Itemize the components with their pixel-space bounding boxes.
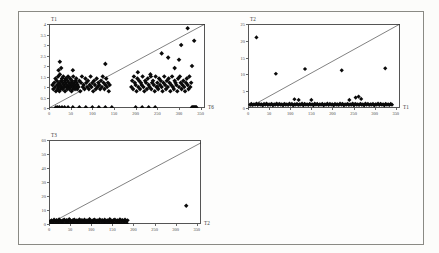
data-point xyxy=(168,89,173,94)
x-axis-tick-mark xyxy=(70,224,71,226)
x-axis-tick-label: 50 xyxy=(267,111,271,116)
y-axis-tick-label: 2 xyxy=(25,64,46,69)
data-point xyxy=(292,97,296,101)
y-axis-tick-label: 10 xyxy=(224,72,245,77)
x-axis-tick-label: 250 xyxy=(350,111,357,116)
chart-t3: T3 6050403020100050100150200250300350T2 xyxy=(25,132,215,242)
y-axis-tick-label: 1 xyxy=(25,85,46,90)
x-axis-tick-mark xyxy=(91,224,92,226)
data-point xyxy=(274,72,278,76)
y-axis-tick-mark xyxy=(47,66,49,67)
y-axis-tick-mark xyxy=(47,196,49,197)
x-axis-tick-mark xyxy=(396,108,397,110)
y-axis-tick-mark xyxy=(47,45,49,46)
x-axis-tick-label: 100 xyxy=(287,111,294,116)
data-point xyxy=(80,74,85,79)
data-point xyxy=(153,74,158,79)
y-axis-tick-label: 5 xyxy=(224,89,245,94)
x-axis-tick-label: 350 xyxy=(197,111,204,116)
data-point xyxy=(162,74,167,79)
x-axis-tick-mark xyxy=(290,108,291,110)
data-point xyxy=(103,62,108,67)
chart-t3-title: T3 xyxy=(51,132,57,138)
data-point xyxy=(146,105,151,108)
y-axis-tick-mark xyxy=(47,140,49,141)
x-axis-tick-label: 350 xyxy=(193,227,200,232)
data-point xyxy=(132,74,137,79)
x-axis-tick-mark xyxy=(92,108,93,110)
y-axis-tick-mark xyxy=(246,24,248,25)
y-axis-tick-label: 1.5 xyxy=(25,74,46,79)
x-axis-tick-label: 200 xyxy=(329,111,336,116)
y-axis-tick-label: 20 xyxy=(224,38,245,43)
x-axis-tick-label: 0 xyxy=(247,111,249,116)
y-axis-tick-mark xyxy=(47,182,49,183)
y-axis-tick-mark xyxy=(47,24,49,25)
data-point xyxy=(140,105,145,108)
y-axis-tick-mark xyxy=(47,87,49,88)
y-axis-tick-label: 15 xyxy=(224,55,245,60)
y-axis-tick-label: 3.5 xyxy=(25,32,46,37)
y-axis-tick-mark xyxy=(246,58,248,59)
x-axis-title: T6 xyxy=(208,104,214,110)
x-axis-tick-label: 200 xyxy=(130,227,137,232)
reference-line xyxy=(49,143,201,224)
x-axis-tick-mark xyxy=(155,224,156,226)
scatter-plot-canvas xyxy=(49,140,201,224)
y-axis-tick-mark xyxy=(246,74,248,75)
data-point xyxy=(71,68,76,73)
x-axis-tick-mark xyxy=(354,108,355,110)
data-point xyxy=(179,43,184,48)
x-axis-tick-label: 300 xyxy=(176,111,183,116)
y-axis-tick-label: 0.5 xyxy=(25,95,46,100)
y-axis-tick-label: 0 xyxy=(25,106,46,111)
y-axis-tick-mark xyxy=(47,56,49,57)
data-point xyxy=(152,89,157,94)
data-point xyxy=(297,98,301,102)
data-point xyxy=(170,74,175,79)
data-point xyxy=(136,70,141,75)
y-axis-tick-label: 4 xyxy=(25,22,46,27)
y-axis-tick-mark xyxy=(47,168,49,169)
scatter-plot-canvas xyxy=(49,24,205,108)
y-axis-tick-mark xyxy=(47,154,49,155)
x-axis-tick-mark xyxy=(112,224,113,226)
reference-line xyxy=(248,24,400,108)
x-axis-tick-label: 300 xyxy=(371,111,378,116)
x-axis-tick-mark xyxy=(248,108,249,110)
figure-page: T1 43.532.521.510.5005010015020025030035… xyxy=(0,0,439,253)
x-axis-tick-mark xyxy=(179,108,180,110)
x-axis-tick-label: 250 xyxy=(154,111,161,116)
data-point xyxy=(383,66,387,70)
data-point xyxy=(192,39,197,44)
data-point xyxy=(309,98,313,102)
data-point xyxy=(303,67,307,71)
data-point xyxy=(107,89,112,94)
data-point xyxy=(189,81,194,86)
x-axis-tick-label: 100 xyxy=(89,111,96,116)
scatter-plot-canvas xyxy=(248,24,400,108)
x-axis-tick-mark xyxy=(375,108,376,110)
x-axis-tick-label: 150 xyxy=(308,111,315,116)
y-axis-tick-mark xyxy=(47,35,49,36)
data-point xyxy=(185,26,190,31)
x-axis-tick-mark xyxy=(71,108,72,110)
y-axis-tick-label: 0 xyxy=(25,222,46,227)
x-axis-tick-label: 200 xyxy=(132,111,139,116)
y-axis-tick-mark xyxy=(47,98,49,99)
x-axis-tick-mark xyxy=(269,108,270,110)
x-axis-tick-mark xyxy=(332,108,333,110)
data-point xyxy=(104,76,109,81)
y-axis-tick-label: 30 xyxy=(25,180,46,185)
x-axis-tick-mark xyxy=(201,108,202,110)
chart-t1: T1 43.532.521.510.5005010015020025030035… xyxy=(25,16,215,124)
y-axis-tick-label: 50 xyxy=(25,152,46,157)
x-axis-tick-label: 0 xyxy=(48,111,50,116)
x-axis-tick-label: 150 xyxy=(111,111,118,116)
y-axis-tick-label: 40 xyxy=(25,166,46,171)
y-axis-tick-mark xyxy=(246,91,248,92)
x-axis-title: T2 xyxy=(204,220,210,226)
data-point xyxy=(159,51,164,56)
data-point xyxy=(58,60,63,65)
x-axis-tick-mark xyxy=(176,224,177,226)
